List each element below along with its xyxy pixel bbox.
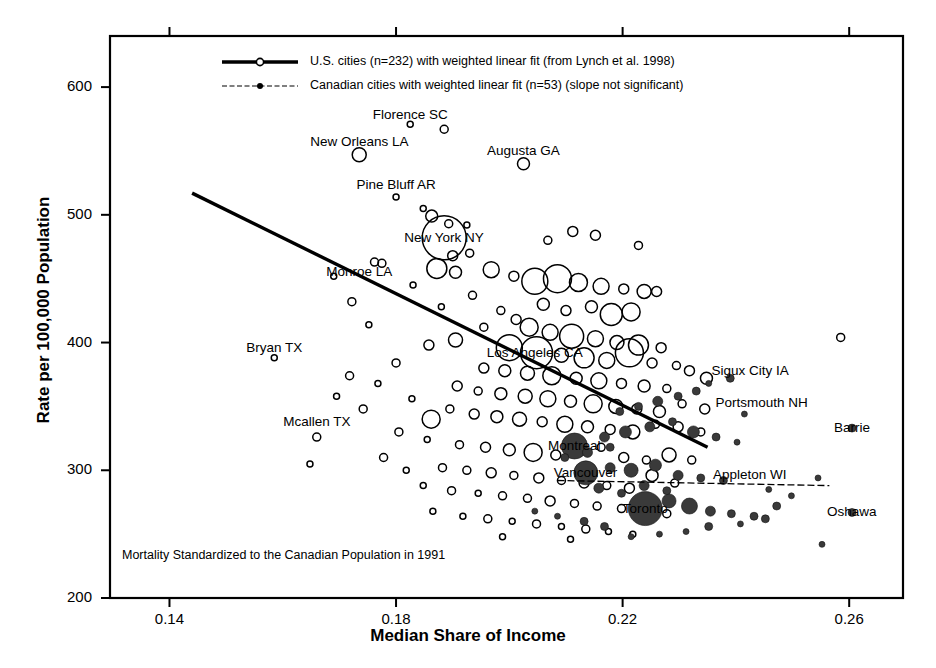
axis-ticks (101, 27, 849, 607)
point-annotation: Mcallen TX (283, 415, 350, 429)
x-tick-label: 0.14 (134, 610, 204, 627)
figure-container: Rate per 100,000 Population Median Share… (0, 0, 936, 668)
y-tick-label: 500 (32, 205, 92, 222)
legend-entry-label: Canadian cities with weighted linear fit… (310, 78, 683, 92)
point-annotation: Barrie (834, 421, 870, 435)
point-annotation: Florence SC (373, 108, 448, 122)
legend-entry-label: U.S. cities (n=232) with weighted linear… (310, 54, 675, 68)
point-annotation: Bryan TX (246, 341, 302, 355)
point-annotation: Monroe LA (326, 265, 392, 279)
point-annotation: New Orleans LA (310, 135, 408, 149)
x-tick-label: 0.26 (814, 610, 884, 627)
x-tick-label: 0.18 (361, 610, 431, 627)
y-tick-label: 200 (32, 588, 92, 605)
scatter-plot-canvas (0, 0, 936, 668)
legend-markers (222, 58, 298, 89)
point-annotation: Toronto (623, 502, 668, 516)
y-tick-label: 400 (32, 333, 92, 350)
point-annotation: Portsmouth NH (715, 396, 807, 410)
point-annotation: Appleton WI (713, 468, 787, 482)
point-annotation: Oshawa (827, 505, 877, 519)
point-annotation: Sigux City IA (712, 364, 789, 378)
y-tick-label: 600 (32, 77, 92, 94)
point-annotation: Montreal (548, 439, 601, 453)
plot-frame (110, 36, 903, 598)
point-annotation: Vancouver (554, 466, 618, 480)
point-annotation: Augusta GA (487, 144, 560, 158)
point-annotation: New York NY (404, 231, 484, 245)
point-annotation: Los Angeles CA (487, 346, 583, 360)
footnote: Mortality Standardized to the Canadian P… (122, 548, 445, 562)
point-annotation: Pine Bluff AR (357, 178, 436, 192)
y-tick-label: 300 (32, 460, 92, 477)
x-tick-label: 0.22 (588, 610, 658, 627)
x-axis-title: Median Share of Income (0, 626, 936, 646)
